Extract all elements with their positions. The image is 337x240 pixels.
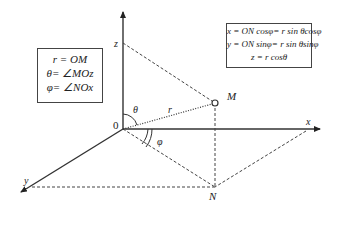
y-axis-label: y [23, 175, 29, 186]
formula-z: z = r cosθ [227, 51, 311, 64]
point-m [212, 100, 218, 106]
definition-r: r = OM [38, 52, 102, 66]
phi-arc [142, 129, 148, 144]
definitions-box: r = OM θ= ∠MOz φ= ∠NOx [37, 48, 103, 103]
formula-x: x = ON cosφ= r sin θcosφ [227, 25, 311, 38]
z-to-m-dashed [123, 43, 215, 103]
formula-y: y = ON sinφ= r sin θsinφ [227, 38, 311, 51]
z-axis-label: z [113, 38, 118, 49]
definition-phi: φ= ∠NOx [38, 80, 102, 94]
y-axis [21, 129, 123, 192]
r-label: r [168, 104, 172, 115]
x-axis-label: x [305, 116, 311, 127]
origin-label: 0 [113, 119, 119, 131]
point-m-label: M [226, 90, 237, 102]
point-n-label: N [208, 190, 217, 202]
x-to-n-dashed [215, 131, 306, 187]
theta-label: θ [133, 104, 138, 115]
formulas-box: x = ON cosφ= r sin θcosφ y = ON sinφ= r … [226, 23, 312, 68]
phi-label: φ [157, 136, 163, 147]
theta-arc [123, 114, 137, 125]
phi-arc-inner [146, 129, 152, 147]
definition-theta: θ= ∠MOz [38, 66, 102, 80]
o-to-n-dashed [123, 129, 215, 187]
